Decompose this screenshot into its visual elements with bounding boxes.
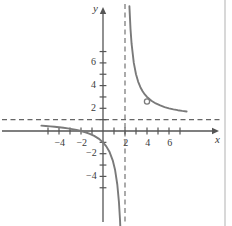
y-axis-label: y <box>93 2 98 14</box>
y-tick-label: −4 <box>86 170 97 181</box>
y-tick-label: −2 <box>86 147 97 158</box>
y-tick-label: 2 <box>91 102 96 113</box>
page-edge-rule <box>224 0 226 226</box>
y-axis-arrowhead <box>100 7 106 14</box>
x-tick-label: 4 <box>145 137 150 148</box>
graph-plot <box>0 0 232 226</box>
x-tick-label: 2 <box>123 137 128 148</box>
x-tick-label: −4 <box>54 137 65 148</box>
x-tick-label: 6 <box>167 137 172 148</box>
right-branch <box>129 6 186 111</box>
figure-canvas: −4−2246642−2−4xy <box>0 0 232 226</box>
y-tick-label: 4 <box>91 79 96 90</box>
open-circle-point <box>144 99 149 104</box>
x-axis-label: x <box>215 133 220 145</box>
y-tick-label: 6 <box>91 56 96 67</box>
